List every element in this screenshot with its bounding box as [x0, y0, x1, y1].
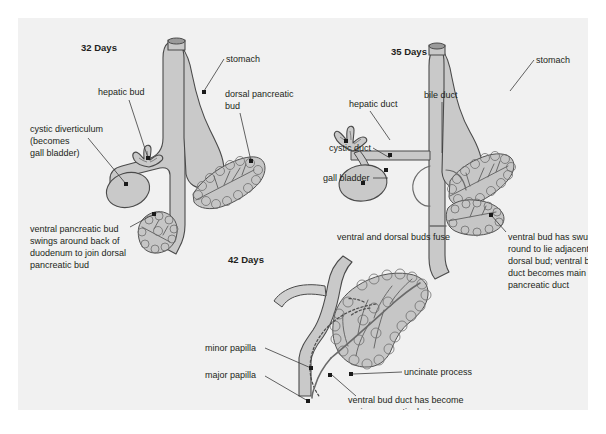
panel-title-35: 35 Days [391, 46, 427, 57]
label-dorsal-bud-32-line2: bud [225, 101, 240, 111]
leader-dorsal-bud-32 [240, 113, 251, 161]
leader-cystic-diverticulum-32 [88, 138, 126, 184]
caption-35-line5: pancreatic duct [508, 280, 570, 290]
dot-hepatic-bud-32 [146, 156, 150, 160]
leader-stomach-32 [204, 59, 224, 91]
caption-35-line2: round to lie adjacent to [508, 244, 588, 254]
label-hepatic-duct-35: hepatic duct [349, 99, 398, 109]
panel-35-days: 35 Days stomach bile duct hepatic duct c… [323, 43, 588, 290]
dot-caption-35 [489, 213, 493, 217]
caption-32-line4: pancreatic bud [30, 260, 89, 270]
figure-frame: 32 Days hepatic bud stomach dorsal pancr… [18, 18, 588, 410]
label-cystic-diverticulum-32-line2: (becomes [30, 136, 70, 146]
dot-major-papilla-42 [306, 399, 310, 403]
dot-caption-32 [152, 212, 156, 216]
label-cystic-diverticulum-32-line3: gall bladder) [30, 148, 80, 158]
leader-stomach-35 [510, 60, 534, 91]
caption-32-line3: duodenum to join dorsal [30, 248, 126, 258]
dot-dorsal-bud-32 [249, 159, 253, 163]
label-bile-duct-35: bile duct [424, 90, 458, 100]
dot-cystic-duct-35 [384, 168, 388, 172]
label-major-papilla-42: major papilla [205, 370, 256, 380]
leader-hepatic-bud-32 [129, 100, 148, 158]
label-stomach-32: stomach [226, 54, 260, 64]
duodenal-loop-35 [413, 166, 430, 206]
cystic-diverticulum-32 [102, 167, 154, 213]
leader-uncinate-process-42 [353, 372, 402, 374]
pancreas-development-illustration: 32 Days hepatic bud stomach dorsal pancr… [18, 18, 588, 410]
caption-32-line1: ventral pancreatic bud [30, 224, 119, 234]
label-stomach-35: stomach [536, 55, 570, 65]
caption-35-line3: dorsal bud; ventral bud [508, 256, 588, 266]
label-cystic-duct-35: cystic duct [329, 143, 372, 153]
panel-title-32: 32 Days [81, 42, 117, 53]
leader-hepatic-duct-35 [370, 111, 390, 140]
figure-root: 32 Days hepatic bud stomach dorsal pancr… [0, 0, 606, 434]
dot-minor-papilla-42 [309, 366, 313, 370]
dot-cystic-diverticulum-32 [124, 182, 128, 186]
caption-35-line4: duct becomes main [508, 268, 586, 278]
dot-uncinate-process-42 [349, 372, 353, 376]
label-dorsal-bud-32-line1: dorsal pancreatic [225, 89, 294, 99]
label-cystic-diverticulum-32-line1: cystic diverticulum [30, 124, 103, 134]
dot-caption-42 [328, 373, 332, 377]
caption-42-line2: main pancreatic duct [348, 407, 432, 410]
caption-35-line1: ventral bud has swung [508, 232, 588, 242]
label-hepatic-bud-32: hepatic bud [98, 87, 145, 97]
caption-32-line2: swings around back of [30, 236, 120, 246]
esophagus-rim-32 [168, 38, 185, 44]
panel-42-days: 42 Days minor papilla major papilla unci… [205, 254, 473, 410]
label-uncinate-process-42: uncinate process [404, 367, 473, 377]
esophagus-rim-35 [429, 43, 445, 49]
label-minor-papilla-42: minor papilla [205, 343, 256, 353]
dot-gall-bladder-35 [361, 181, 365, 185]
dot-bile-duct-35 [388, 153, 392, 157]
leader-caption-42 [332, 375, 356, 396]
caption-42-line1: ventral bud duct has become [348, 395, 464, 405]
panel-32-days: 32 Days hepatic bud stomach dorsal pancr… [30, 38, 294, 270]
panel-title-42: 42 Days [228, 254, 264, 265]
accessory-duct-arm-42 [274, 285, 326, 307]
caption-35-fuse: ventral and dorsal buds fuse [337, 232, 450, 242]
main-duct-to-papilla-42 [312, 358, 331, 398]
dot-stomach-32 [202, 90, 206, 94]
